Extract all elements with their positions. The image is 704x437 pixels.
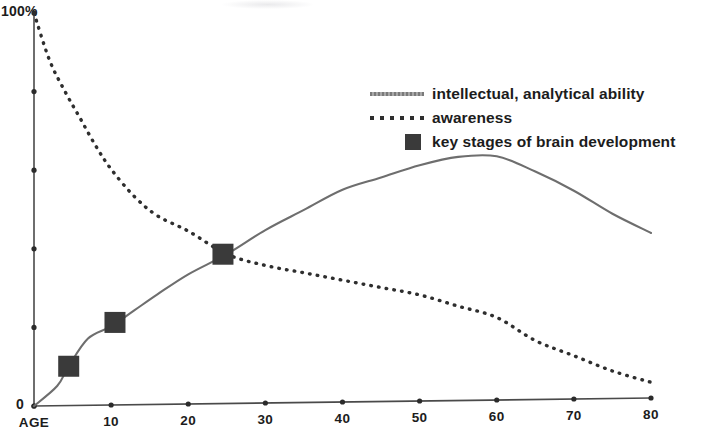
x-axis-tick-label: AGE (19, 415, 49, 430)
chart-plot-area: AGE1020304050607080 (0, 0, 704, 437)
square-swatch (366, 132, 424, 152)
x-axis-tick (648, 395, 653, 400)
x-axis-tick (263, 400, 268, 405)
key-stage-marker (212, 244, 233, 265)
x-axis-tick (186, 401, 191, 406)
legend-item-awareness: awareness (366, 106, 702, 130)
awareness-curve (34, 13, 651, 382)
legend-item-intellectual: intellectual, analytical ability (366, 82, 702, 106)
y-axis-tick (31, 168, 36, 173)
key-stage-marker (58, 356, 79, 377)
chart-legend: intellectual, analytical ability awarene… (366, 82, 702, 154)
x-axis-tick-label: 20 (180, 413, 196, 428)
x-axis-tick-label: 10 (103, 414, 119, 429)
intellectual-ability-curve (34, 155, 651, 406)
key-stage-marker (104, 312, 125, 333)
legend-label-key-stages: key stages of brain development (432, 133, 675, 151)
x-axis-tick (109, 402, 114, 407)
y-axis-tick (31, 89, 36, 94)
x-axis-tick-label: 30 (257, 412, 273, 427)
x-axis-tick (417, 398, 422, 403)
x-axis-tick (571, 396, 576, 401)
x-axis-tick-label: 80 (643, 407, 659, 422)
x-axis-tick-label: 70 (566, 408, 582, 423)
x-axis-tick-label: 50 (412, 410, 428, 425)
legend-item-key-stages: key stages of brain development (366, 130, 702, 154)
line-dotted-swatch (366, 108, 424, 128)
y-axis-tick (31, 325, 36, 330)
y-axis-tick (31, 246, 36, 251)
legend-label-awareness: awareness (432, 109, 512, 127)
x-axis-ticks (31, 395, 653, 408)
brain-development-chart: 100% 0 AGE1020304050607080 intellectual,… (0, 0, 704, 437)
x-axis-tick (340, 399, 345, 404)
legend-label-intellectual: intellectual, analytical ability (432, 85, 645, 103)
x-axis-tick-labels: AGE1020304050607080 (19, 407, 659, 430)
x-axis-tick-label: 40 (335, 411, 351, 426)
x-axis-tick (494, 397, 499, 402)
x-axis-tick-label: 60 (489, 409, 505, 424)
line-solid-swatch (366, 84, 424, 104)
